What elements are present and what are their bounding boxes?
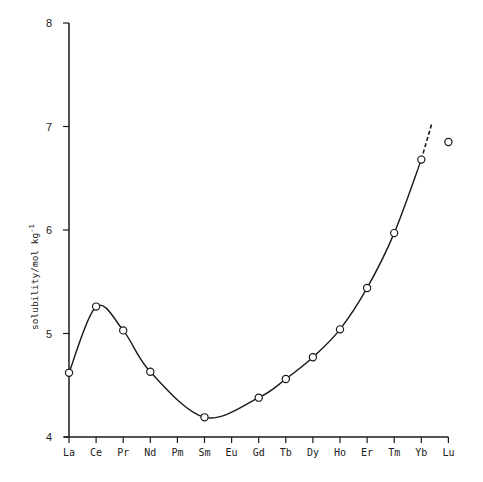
data-point-pr	[120, 327, 127, 334]
x-tick-label: Sm	[198, 447, 210, 458]
x-tick-label: Pm	[171, 447, 183, 458]
data-point-er	[364, 284, 371, 291]
data-point-ce	[93, 303, 100, 310]
y-axis-title: solubility/mol kg-1	[28, 224, 40, 330]
axes	[64, 23, 448, 437]
x-tick-label: Nd	[144, 447, 156, 458]
y-axis-ticks: 45678	[46, 17, 69, 443]
data-point-nd	[147, 368, 154, 375]
y-tick-label: 5	[46, 328, 52, 340]
x-tick-label: Gd	[253, 447, 265, 458]
y-tick-label: 4	[46, 431, 52, 443]
data-point-la	[65, 369, 72, 376]
x-tick-label: Pr	[117, 447, 129, 458]
y-tick-label: 7	[46, 121, 52, 133]
x-tick-label: Er	[361, 447, 373, 458]
x-tick-label: Tm	[388, 447, 400, 458]
data-point-sm	[201, 414, 208, 421]
data-points	[65, 138, 452, 421]
x-tick-label: La	[63, 447, 75, 458]
data-point-lu	[445, 138, 452, 145]
data-point-tm	[391, 230, 398, 237]
fit-curve-dashed-extension	[421, 122, 432, 159]
x-tick-label: Tb	[280, 447, 292, 458]
x-tick-label: Dy	[307, 447, 319, 458]
data-point-ho	[336, 326, 343, 333]
data-point-gd	[255, 394, 262, 401]
x-tick-label: Ce	[90, 447, 102, 458]
data-point-dy	[309, 354, 316, 361]
solubility-chart: 45678 LaCePrNdPmSmEuGdTbDyHoErTmYbLu sol…	[0, 0, 483, 482]
y-tick-label: 6	[46, 224, 52, 236]
x-tick-label: Ho	[334, 447, 346, 458]
x-tick-label: Lu	[442, 447, 454, 458]
data-point-tb	[282, 375, 289, 382]
data-point-yb	[418, 156, 425, 163]
x-tick-label: Yb	[415, 447, 427, 458]
x-tick-label: Eu	[226, 447, 238, 458]
y-tick-label: 8	[46, 17, 52, 29]
x-axis-ticks: LaCePrNdPmSmEuGdTbDyHoErTmYbLu	[63, 437, 454, 458]
